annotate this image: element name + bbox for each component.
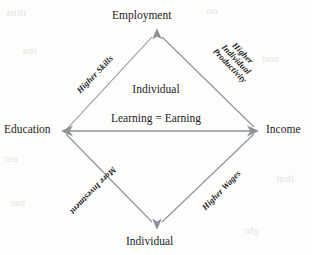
node-label-education: Education xyxy=(4,124,51,136)
node-label-individual: Individual xyxy=(126,236,173,248)
node-label-income: Income xyxy=(266,124,300,136)
center-label-individual: Individual xyxy=(106,84,206,96)
arrowhead-top-icon xyxy=(152,28,162,40)
node-label-employment: Employment xyxy=(112,10,171,22)
arrowhead-bottom-icon xyxy=(152,219,162,231)
center-label-learning-equals-earning: Learning = Earning xyxy=(81,113,231,125)
diagram-canvas: thus on the and est that ber ght Employm… xyxy=(0,0,312,255)
